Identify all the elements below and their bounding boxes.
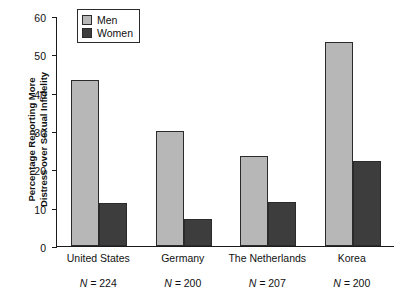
legend-item-men: Men: [82, 13, 133, 26]
y-tick-label-30: 30: [34, 127, 46, 139]
y-tick-label-0: 0: [40, 242, 46, 254]
legend-label-men: Men: [97, 14, 117, 26]
sample-size-label-germany: N = 200: [164, 277, 201, 289]
y-tick-label-10: 10: [34, 204, 46, 216]
bar-women-germany: [184, 219, 212, 246]
legend-swatch-men: [82, 15, 92, 25]
category-label-germany: Germany: [161, 252, 204, 264]
chart-figure: Percentage Reporting More Distress over …: [0, 0, 401, 299]
category-label-the-netherlands: The Netherlands: [228, 252, 306, 264]
category-label-korea: Korea: [338, 252, 366, 264]
legend-item-women: Women: [82, 26, 133, 39]
bar-series-container: [57, 17, 394, 246]
chart-legend: Men Women: [77, 9, 140, 43]
bar-men-korea: [325, 42, 353, 246]
y-tick-label-50: 50: [34, 50, 46, 62]
bar-women-korea: [353, 161, 381, 246]
legend-swatch-women: [82, 28, 92, 38]
y-tick-label-60: 60: [34, 12, 46, 24]
bar-women-united-states: [99, 203, 127, 246]
sample-size-label-the-netherlands: N = 207: [249, 277, 286, 289]
sample-size-label-united-states: N = 224: [80, 277, 117, 289]
bar-men-united-states: [71, 80, 99, 246]
legend-label-women: Women: [97, 27, 133, 39]
y-tick-0: 0: [52, 247, 57, 248]
category-label-united-states: United States: [67, 252, 130, 264]
sample-size-label-korea: N = 200: [333, 277, 370, 289]
bar-women-the-netherlands: [268, 202, 296, 246]
plot-area: 0102030405060: [56, 17, 394, 247]
bar-men-the-netherlands: [240, 156, 268, 246]
y-tick-label-40: 40: [34, 89, 46, 101]
y-tick-label-20: 20: [34, 165, 46, 177]
bar-men-germany: [156, 131, 184, 246]
